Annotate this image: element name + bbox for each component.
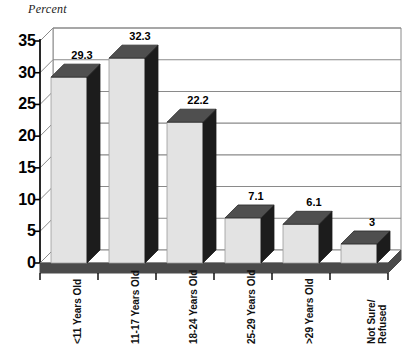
category-label-0: <11 Years Old [73, 279, 83, 344]
category-label-1: 11-17 Years Old [131, 270, 141, 344]
category-label-5: Not Sure/ Refused [366, 300, 388, 344]
category-label-layer: <11 Years Old11-17 Years Old18-24 Years … [0, 0, 415, 347]
bar-chart: Percent 05101520253035 29.332.322.27.16.… [0, 0, 415, 347]
category-label-2: 18-24 Years Old [189, 270, 199, 344]
category-label-4: >29 Years Old [305, 278, 315, 344]
category-label-3: 25-29 Years Old [247, 270, 257, 344]
